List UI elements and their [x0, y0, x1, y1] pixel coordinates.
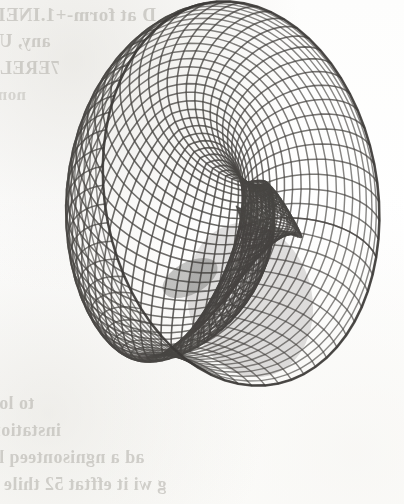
scanned-page: D at form-+1.INELL. any, Unix 7ERELIC, n…: [0, 0, 404, 504]
figure-container: [0, 0, 404, 504]
wireframe-surface-mesh: [0, 0, 404, 504]
